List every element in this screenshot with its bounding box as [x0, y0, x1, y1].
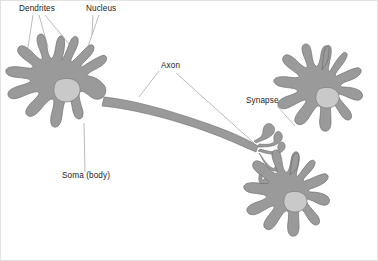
diagram-canvas: Dendrites Nucleus Axon Synapse Soma (bod…	[0, 0, 378, 261]
nucleus-upper-right	[316, 87, 339, 108]
nucleus-lower-right	[284, 191, 307, 212]
soma-with-dendrites	[244, 150, 330, 236]
label-dendrites: Dendrites	[19, 4, 55, 13]
nucleus-left	[54, 78, 80, 102]
label-synapse: Synapse	[246, 96, 279, 105]
soma-with-dendrites	[6, 34, 107, 127]
leader-axon-1	[139, 71, 159, 97]
axon-shaft	[102, 97, 258, 152]
leader-soma-1	[84, 123, 85, 172]
postsynaptic-neuron-upper	[274, 44, 363, 131]
label-nucleus: Nucleus	[86, 4, 116, 13]
neuron-diagram: Dendrites Nucleus Axon Synapse Soma (bod…	[0, 0, 378, 261]
label-axon: Axon	[161, 61, 180, 70]
leader-dendrites-3	[45, 15, 69, 44]
presynaptic-neuron	[6, 34, 285, 185]
figure-frame	[1, 1, 378, 261]
leader-synapse-1	[277, 106, 295, 126]
label-soma: Soma (body)	[62, 171, 110, 180]
soma-with-dendrites	[274, 44, 363, 131]
postsynaptic-neuron-lower	[244, 150, 330, 236]
